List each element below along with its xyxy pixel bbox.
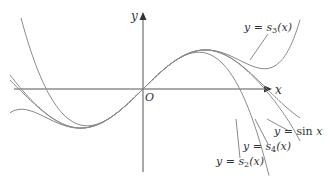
y-axis-label: y — [130, 9, 138, 23]
plot-canvas: y x O y = s3(x) y = sin x y = s4(x) y = … — [0, 0, 330, 179]
label-s3: y = s3(x) — [243, 21, 292, 35]
svg-text:y = s3(x): y = s3(x) — [243, 21, 292, 35]
svg-text:y = sin x: y = sin x — [273, 125, 323, 138]
svg-text:y = s2(x): y = s2(x) — [215, 155, 264, 169]
leader-s3 — [250, 34, 268, 60]
curve-s3 — [10, 20, 300, 129]
leader-s2 — [236, 119, 240, 158]
y-axis-arrow-icon — [140, 12, 147, 20]
label-sin: y = sin x — [273, 125, 323, 138]
svg-text:y = s4(x): y = s4(x) — [242, 140, 291, 154]
label-s4: y = s4(x) — [242, 140, 291, 154]
origin-label: O — [145, 91, 154, 104]
x-axis-label: x — [275, 83, 282, 97]
label-s2: y = s2(x) — [215, 155, 264, 169]
curve-s4 — [10, 50, 300, 141]
taylor-series-figure: y x O y = s3(x) y = sin x y = s4(x) y = … — [0, 0, 330, 179]
